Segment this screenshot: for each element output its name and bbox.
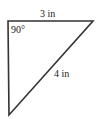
right-angle-label: 90° bbox=[11, 25, 25, 35]
triangle-outline bbox=[8, 21, 93, 115]
top-side-length-label: 3 in bbox=[40, 9, 55, 19]
hypotenuse-length-label: 4 in bbox=[54, 69, 69, 79]
triangle-diagram: 3 in 90° 4 in bbox=[0, 0, 99, 119]
